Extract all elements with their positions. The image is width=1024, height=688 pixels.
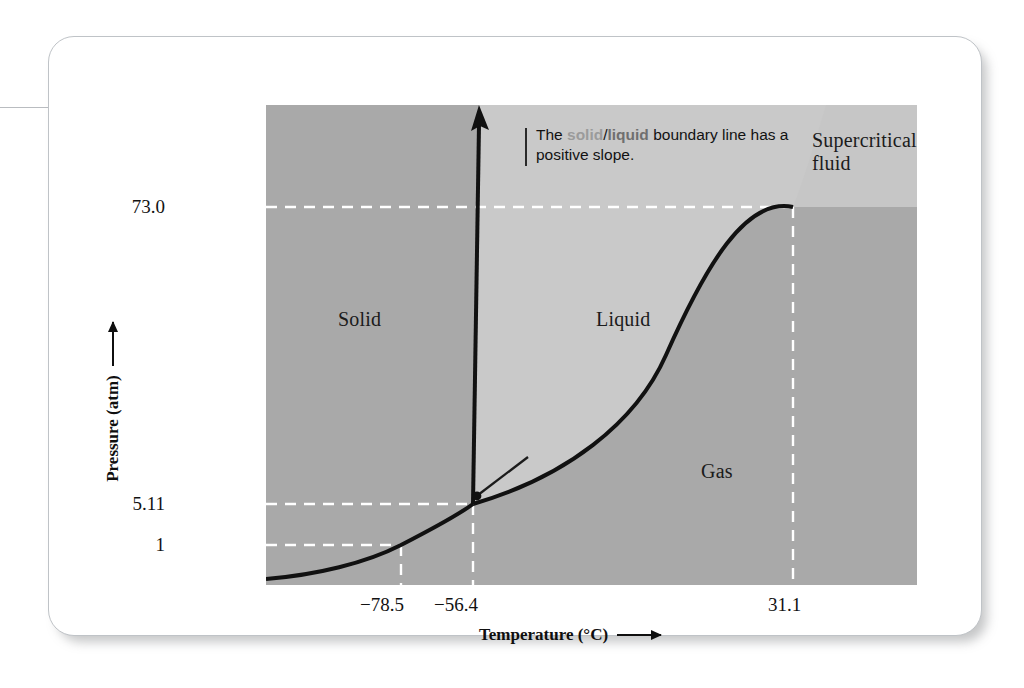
figure-card: Solid Liquid Gas Supercritical fluid The… <box>48 36 982 636</box>
callout-text-before: The <box>536 126 567 143</box>
x-tick-label-minus-56-4: −56.4 <box>434 594 478 616</box>
callout-anchor-dot <box>473 492 482 501</box>
y-tick-label-1: 1 <box>156 534 166 556</box>
region-label-solid: Solid <box>338 308 381 331</box>
region-label-gas: Gas <box>701 460 733 483</box>
callout-keyword-liquid: liquid <box>608 126 649 143</box>
phase-diagram-svg <box>266 105 917 585</box>
y-tick-label-73: 73.0 <box>132 196 165 218</box>
callout-annotation: The solid/liquid boundary line has a pos… <box>536 125 804 166</box>
phase-diagram-plot <box>266 105 917 585</box>
x-axis-title-text: Temperature (°C) <box>479 625 608 645</box>
region-label-supercritical-fluid: Supercritical fluid <box>812 129 917 175</box>
callout-keyword-solid: solid <box>567 126 603 143</box>
y-axis-title-text: Pressure (atm) <box>103 375 123 482</box>
x-tick-label-31-1: 31.1 <box>768 594 801 616</box>
x-axis-title: Temperature (°C) <box>479 625 661 645</box>
region-label-liquid: Liquid <box>596 308 651 331</box>
y-axis-arrow-icon <box>112 322 114 366</box>
x-axis-arrow-icon <box>617 634 661 636</box>
x-tick-label-minus-78-5: −78.5 <box>360 594 404 616</box>
y-axis-title: Pressure (atm) <box>103 282 123 522</box>
callout-bracket <box>525 128 527 166</box>
y-tick-label-5-11: 5.11 <box>132 493 165 515</box>
